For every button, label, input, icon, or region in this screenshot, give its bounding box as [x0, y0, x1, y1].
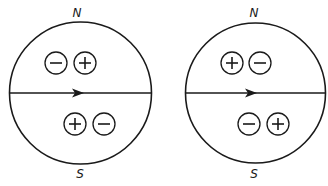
diagram-canvas: N S N S — [0, 0, 328, 186]
left-south-label: S — [76, 167, 84, 181]
right-upper-plus-charge — [221, 52, 243, 74]
right-upper-minus-charge — [249, 52, 271, 74]
right-lower-plus-charge — [267, 113, 289, 135]
left-diagram: N S — [10, 6, 152, 181]
left-upper-minus-charge — [45, 52, 67, 74]
left-upper-plus-charge — [74, 52, 96, 74]
left-north-label: N — [73, 6, 82, 20]
right-lower-minus-charge — [238, 113, 260, 135]
left-lower-plus-charge — [64, 113, 86, 135]
left-lower-minus-charge — [93, 113, 115, 135]
right-north-label: N — [250, 6, 259, 20]
right-south-label: S — [250, 167, 258, 181]
right-diagram: N S — [186, 6, 326, 181]
